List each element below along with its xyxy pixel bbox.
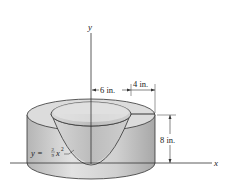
x-axis-label: x (213, 158, 218, 168)
equation-exponent: 2 (61, 146, 64, 152)
dimension-label-inner-radius: 6 in. (100, 85, 115, 95)
dimension-6in: 6 in. (92, 84, 131, 96)
equation-y: y = (30, 148, 43, 158)
dimension-8in: 8 in. (157, 115, 186, 163)
dimension-label-height: 8 in. (160, 135, 175, 145)
cylinder-with-parabolic-cavity-diagram: y x 6 in. 4 in. 8 in. y = 2 9 x 2 (0, 0, 230, 192)
dimension-label-rim-width: 4 in. (133, 79, 148, 89)
equation-x: x (55, 148, 60, 158)
y-axis-label: y (87, 22, 92, 32)
